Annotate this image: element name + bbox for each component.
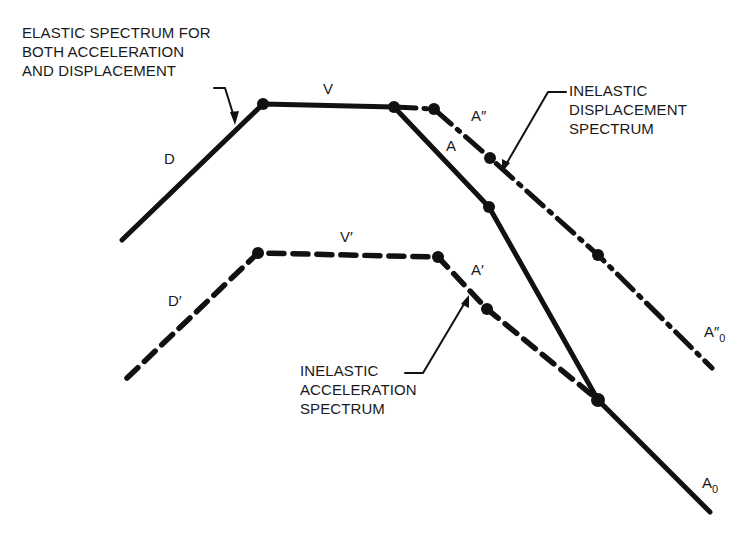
- node-dot: [388, 101, 400, 113]
- symbol-A0-double-prime: A″0: [704, 323, 725, 340]
- node-dot: [257, 98, 269, 110]
- elastic-spectrum-line: [122, 104, 710, 512]
- symbol-D: D: [164, 150, 175, 167]
- node-dot: [481, 303, 493, 315]
- symbol-V-prime: V′: [340, 228, 353, 245]
- symbol-D-prime: D′: [168, 292, 182, 309]
- inelastic-displacement-leader: [504, 92, 566, 168]
- symbol-A: A: [446, 137, 456, 154]
- symbol-A-double-prime: A″: [471, 107, 486, 124]
- symbol-A-prime: A′: [471, 261, 484, 278]
- elastic-spectrum-label: ELASTIC SPECTRUM FOR BOTH ACCELERATION A…: [22, 23, 211, 80]
- node-dot: [428, 103, 440, 115]
- node-dot: [591, 393, 605, 407]
- inelastic-displacement-label: INELASTIC DISPLACEMENT SPECTRUM: [569, 81, 687, 138]
- symbol-subscript: 0: [712, 483, 718, 495]
- inelastic-acceleration-label: INELASTIC ACCELERATION SPECTRUM: [300, 361, 417, 418]
- symbol-subscript: 0: [719, 332, 725, 344]
- symbol-base: A: [702, 474, 712, 491]
- node-dot: [592, 249, 604, 261]
- symbol-A0: A0: [702, 474, 718, 491]
- node-dot: [484, 152, 496, 164]
- symbol-base: A″: [704, 323, 719, 340]
- arrowhead-icon: [230, 111, 239, 125]
- node-dot: [252, 247, 264, 259]
- node-dot: [432, 251, 444, 263]
- symbol-V: V: [323, 80, 333, 97]
- node-dot: [483, 201, 495, 213]
- inelastic-displacement-line: [394, 107, 712, 368]
